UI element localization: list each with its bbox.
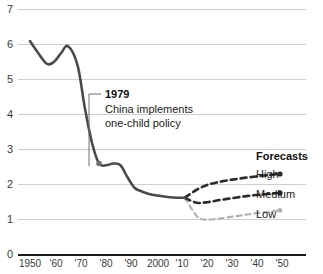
legend-label-low[interactable]: Low	[256, 208, 276, 220]
legend-title: Forecasts	[256, 150, 308, 162]
annotation-one-child-policy: 1979 China implements one-child policy	[89, 88, 194, 166]
y-tick-0: 0	[7, 248, 13, 260]
y-tick-4: 4	[7, 108, 13, 120]
chart-canvas: 7 6 5 4 3 2 1 0 1950 '60 '70 '80 '90 200…	[0, 0, 323, 274]
annotation-year-label: 1979	[105, 88, 129, 100]
x-tick-1950: 1950	[19, 258, 42, 269]
y-tick-5: 5	[7, 73, 13, 85]
endpoint-dot-low	[278, 208, 283, 213]
x-tick-2000: 2000	[147, 258, 170, 269]
annotation-text-line-1: China implements	[105, 103, 194, 115]
y-axis-labels: 7 6 5 4 3 2 1 0	[7, 3, 13, 260]
y-tick-6: 6	[7, 38, 13, 50]
y-tick-1: 1	[7, 213, 13, 225]
x-tick-1970: '70	[74, 258, 87, 269]
x-tick-2040: '40	[250, 258, 263, 269]
series-paths	[30, 41, 280, 220]
x-tick-2050: '50	[275, 258, 288, 269]
legend-label-high[interactable]: High	[256, 168, 279, 180]
x-tick-1980: '80	[99, 258, 112, 269]
annotation-text-line-2: one-child policy	[105, 117, 181, 129]
y-tick-7: 7	[7, 3, 13, 15]
x-tick-1960: '60	[49, 258, 62, 269]
fertility-rate-chart: 7 6 5 4 3 2 1 0 1950 '60 '70 '80 '90 200…	[0, 0, 323, 274]
y-tick-3: 3	[7, 143, 13, 155]
x-tick-2030: '30	[225, 258, 238, 269]
x-tick-1990: '90	[124, 258, 137, 269]
x-axis-labels: 1950 '60 '70 '80 '90 2000 '10 '20 '30 '4…	[19, 258, 289, 269]
annotation-point-marker	[96, 161, 102, 167]
y-tick-2: 2	[7, 178, 13, 190]
legend-label-medium[interactable]: Medium	[256, 188, 295, 200]
x-tick-2010: '10	[175, 258, 188, 269]
x-tick-2020: '20	[200, 258, 213, 269]
